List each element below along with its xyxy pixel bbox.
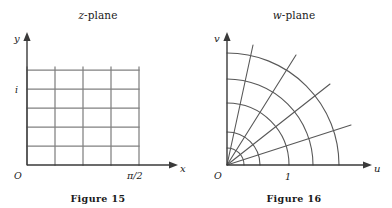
polar-arc [227,79,313,165]
z-plane-plot: y x i O π/2 [0,22,196,182]
u-tick-label-1: 1 [285,171,291,182]
v-axis-label: v [214,33,220,44]
origin-label: O [214,170,222,181]
u-axis-arrowhead [363,161,372,168]
y-axis-arrowhead [23,32,30,41]
origin-label: O [14,170,22,181]
z-plane-x-axis [27,161,178,168]
x-tick-label-pi-over-2: π/2 [126,170,143,181]
polar-ray [227,55,296,165]
y-tick-label-i: i [15,84,18,95]
y-axis-label: y [13,33,20,44]
v-axis-arrowhead [223,32,230,41]
figure-caption-15: Figure 15 [0,193,196,204]
u-axis-label: u [374,163,380,174]
plane-title-w-variable: w [273,9,282,21]
figure-caption-16: Figure 16 [196,193,392,204]
w-plane-arcs [227,53,339,165]
w-plane-u-axis [227,161,372,168]
w-plane-plot: v u O 1 [196,22,392,182]
plane-title-w-suffix: -plane [282,9,315,21]
plane-title-z-suffix: -plane [84,9,117,21]
plane-title-w: w-plane [196,9,392,21]
polar-arc [227,103,289,165]
polar-arc [227,53,339,165]
figure-panel-z-plane: z-plane [0,0,196,208]
w-plane-v-axis [223,32,230,165]
figure-panel-w-plane: w-plane [196,0,392,208]
x-axis-label: x [180,163,186,174]
figure-pair: z-plane [0,0,392,208]
x-axis-arrowhead [169,161,178,168]
z-plane-vertical-grid [27,67,139,165]
z-plane-y-axis [23,32,30,165]
plane-title-z: z-plane [0,9,196,21]
